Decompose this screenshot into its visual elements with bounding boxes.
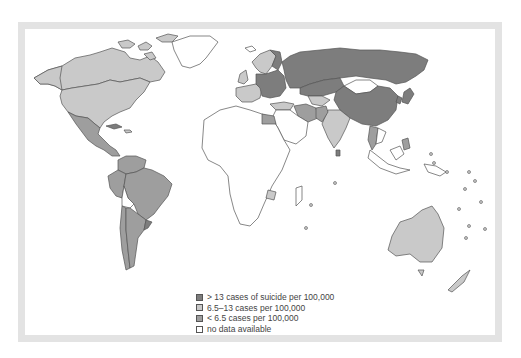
region-australia [388, 206, 444, 262]
legend-label: > 13 cases of suicide per 100,000 [207, 292, 334, 303]
region-tasmania [418, 270, 424, 276]
region-new-zealand [448, 270, 470, 292]
region-central-asia [308, 96, 330, 106]
legend-swatch-high [196, 294, 203, 301]
legend-item-no-data: no data available [196, 324, 334, 335]
region-western-europe [236, 84, 262, 102]
region-zimbabwe [266, 190, 276, 200]
region-caribbean [124, 130, 132, 133]
legend-swatch-no-data [196, 326, 203, 333]
legend-swatch-medium [196, 304, 203, 311]
legend-item-high: > 13 cases of suicide per 100,000 [196, 292, 334, 303]
region-scandinavia [252, 50, 276, 74]
legend-item-low: < 6.5 cases per 100,000 [196, 313, 334, 324]
legend-item-medium: 6.5–13 cases per 100,000 [196, 303, 334, 314]
region-greenland [172, 36, 218, 68]
region-uk [238, 70, 248, 84]
region-iceland [245, 46, 256, 52]
map-legend: > 13 cases of suicide per 100,000 6.5–13… [196, 292, 334, 334]
region-turkey [270, 102, 294, 110]
legend-label: 6.5–13 cases per 100,000 [207, 303, 305, 314]
pacific-islands [305, 153, 487, 240]
region-indochina [376, 128, 386, 144]
legend-label: no data available [207, 324, 271, 335]
legend-swatch-low [196, 315, 203, 322]
legend-label: < 6.5 cases per 100,000 [207, 313, 298, 324]
region-sri-lanka [336, 150, 340, 156]
region-india [322, 110, 350, 148]
region-png [424, 164, 446, 176]
region-alaska [34, 66, 62, 90]
region-japan [402, 88, 414, 104]
region-cuba [106, 124, 122, 129]
region-madagascar [296, 186, 302, 206]
region-philippines [402, 138, 410, 150]
region-borneo [390, 146, 404, 160]
